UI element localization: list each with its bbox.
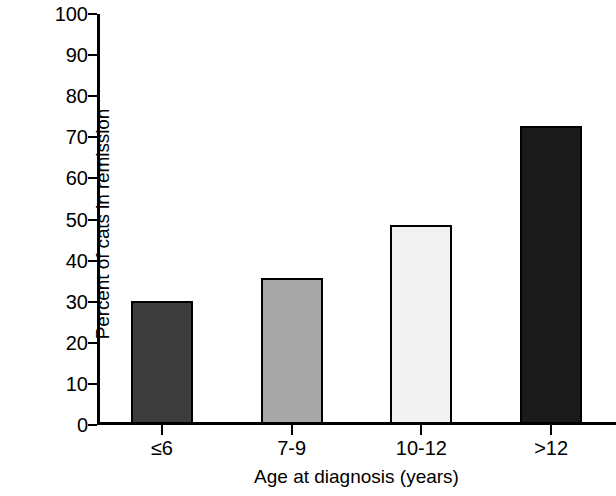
y-axis-tick-labels: 0102030405060708090100	[38, 0, 88, 496]
x-axis-tick	[291, 425, 293, 435]
y-axis-tick	[88, 219, 97, 221]
y-axis-tick	[88, 342, 97, 344]
y-axis-tick	[88, 13, 97, 15]
y-axis-tick-label: 80	[42, 86, 88, 106]
y-axis-tick-label: 70	[42, 127, 88, 147]
x-axis-tick-label: ≤6	[151, 436, 173, 460]
bar	[131, 301, 193, 424]
y-axis-tick	[88, 95, 97, 97]
y-axis-tick	[88, 136, 97, 138]
plot-area	[97, 14, 616, 425]
bar	[390, 225, 452, 424]
y-axis-tick	[88, 177, 97, 179]
bar-chart-figure: Percent of cats in remission 01020304050…	[0, 0, 616, 496]
y-axis-tick-label: 60	[42, 168, 88, 188]
y-axis-tick-label: 20	[42, 333, 88, 353]
x-axis-tick-label: 7-9	[277, 436, 306, 460]
y-axis-tick-label: 40	[42, 251, 88, 271]
y-axis-tick	[88, 424, 97, 426]
y-axis-tick-label: 90	[42, 45, 88, 65]
y-axis-line	[97, 14, 100, 425]
y-axis-tick-label: 10	[42, 374, 88, 394]
y-axis-tick-label: 0	[42, 415, 88, 435]
y-axis-tick	[88, 260, 97, 262]
y-axis-tick-label: 100	[42, 4, 88, 24]
x-axis-tick	[420, 425, 422, 435]
x-axis-title: Age at diagnosis (years)	[97, 466, 616, 488]
x-axis-tick-labels: ≤67-910-12>12	[97, 436, 616, 462]
bar	[261, 278, 323, 424]
y-axis-tick-label: 30	[42, 292, 88, 312]
y-axis-tick	[88, 383, 97, 385]
x-axis-tick	[161, 425, 163, 435]
y-axis-tick	[88, 54, 97, 56]
bar	[520, 126, 582, 424]
x-axis-tick-label: 10-12	[396, 436, 447, 460]
x-axis-tick	[550, 425, 552, 435]
y-axis-tick	[88, 301, 97, 303]
x-axis-tick-label: >12	[534, 436, 568, 460]
y-axis-tick-label: 50	[42, 210, 88, 230]
